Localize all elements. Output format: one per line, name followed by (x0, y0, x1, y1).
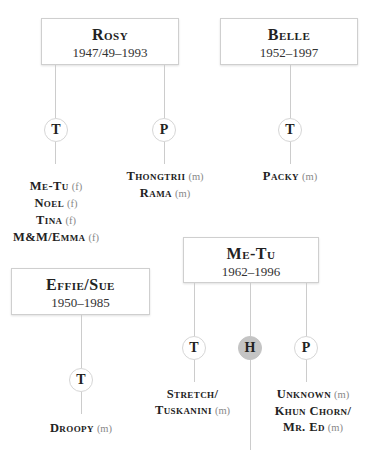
mother-name: Effie/Sue (12, 276, 149, 294)
child-entry: Mr. Ed (m) (258, 419, 368, 436)
connector-line (164, 65, 165, 118)
children-list: Me-Tu (f) Noel (f) Tina (f) M&M/Emma (f) (0, 178, 112, 246)
child-entry: Khun Chorn/ (258, 403, 368, 419)
mother-years: 1950–1985 (12, 294, 149, 312)
connector-line (194, 283, 195, 336)
child-entry: Thongtrii (m) (110, 168, 220, 185)
connector-line (81, 315, 82, 368)
mother-years: 1952–1997 (221, 44, 357, 62)
children-list: Packy (m) (240, 168, 340, 185)
child-entry: Unknown (m) (258, 386, 368, 403)
child-entry: Tuskanini (m) (140, 402, 245, 419)
mother-box-rosy: Rosy 1947/49–1993 (41, 18, 179, 65)
mother-years: 1962–1996 (184, 263, 318, 281)
child-entry: Droopy (m) (30, 420, 132, 437)
child-entry: Noel (f) (0, 195, 112, 212)
connector-line (250, 360, 251, 450)
child-entry: Stretch/ (140, 386, 245, 402)
child-entry: Rama (m) (110, 185, 220, 202)
mother-box-belle: Belle 1952–1997 (220, 18, 358, 65)
group-marker-t: T (69, 368, 93, 392)
connector-line (306, 360, 307, 382)
children-list: Thongtrii (m) Rama (m) (110, 168, 220, 202)
child-entry: Tina (f) (0, 212, 112, 229)
mother-name: Belle (221, 26, 357, 44)
children-list: Unknown (m) Khun Chorn/ Mr. Ed (m) (258, 386, 368, 436)
connector-line (194, 360, 195, 382)
group-marker-p: P (294, 336, 318, 360)
connector-line (164, 142, 165, 164)
mother-box-effie: Effie/Sue 1950–1985 (11, 268, 150, 315)
children-list: Stretch/ Tuskanini (m) (140, 386, 245, 419)
child-entry: M&M/Emma (f) (0, 229, 112, 246)
connector-line (306, 283, 307, 336)
group-marker-t: T (182, 336, 206, 360)
connector-line (250, 283, 251, 336)
connector-line (55, 142, 56, 164)
mother-name: Me-Tu (184, 245, 318, 263)
connector-line (290, 142, 291, 164)
children-list: Droopy (m) (30, 420, 132, 437)
mother-years: 1947/49–1993 (42, 44, 178, 62)
connector-line (55, 65, 56, 118)
mother-box-metu: Me-Tu 1962–1996 (183, 237, 319, 283)
mother-name: Rosy (42, 26, 178, 44)
connector-line (81, 392, 82, 414)
group-marker-h: H (238, 336, 262, 360)
group-marker-t: T (44, 118, 68, 142)
child-entry: Me-Tu (f) (0, 178, 112, 195)
group-marker-p: P (152, 118, 176, 142)
child-entry: Packy (m) (240, 168, 340, 185)
group-marker-t: T (278, 118, 302, 142)
connector-line (290, 65, 291, 118)
